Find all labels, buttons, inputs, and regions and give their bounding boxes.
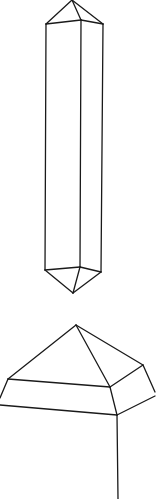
crystal-edge <box>110 387 117 415</box>
crystal-edge <box>8 325 76 379</box>
crystal-edge <box>76 325 143 365</box>
crystal-edge <box>46 20 81 24</box>
crystal-edge <box>143 365 155 392</box>
crystal-edge <box>117 415 118 499</box>
crystal-edge <box>45 270 73 293</box>
crystal-edge <box>46 0 72 24</box>
single-terminated-crystal <box>0 325 155 499</box>
crystal-edge <box>76 325 110 387</box>
doubly-terminated-crystal <box>45 0 103 293</box>
crystal-edge <box>117 396 155 415</box>
crystal-edge <box>45 267 80 270</box>
crystal-edge <box>80 20 81 267</box>
crystal-edge <box>8 379 110 387</box>
crystal-edge <box>101 24 103 272</box>
crystal-diagram <box>0 0 156 499</box>
crystal-edge <box>80 267 101 272</box>
crystal-edge <box>0 379 8 398</box>
crystal-edge <box>0 405 117 415</box>
crystal-edge <box>45 24 46 270</box>
crystal-edge <box>110 365 143 387</box>
